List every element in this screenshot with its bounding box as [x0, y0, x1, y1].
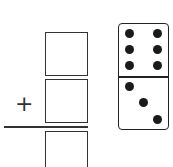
- domino: [118, 23, 169, 130]
- pip: [125, 82, 134, 91]
- answer-box-middle[interactable]: [45, 79, 88, 123]
- pip: [125, 61, 134, 70]
- sum-line: [4, 126, 88, 128]
- pip: [125, 45, 134, 54]
- answer-box-sum[interactable]: [45, 131, 88, 167]
- domino-divider: [119, 76, 168, 78]
- pip: [125, 29, 134, 38]
- answer-box-top[interactable]: [45, 32, 88, 76]
- plus-sign: +: [15, 93, 33, 115]
- pip: [153, 61, 162, 70]
- pip: [153, 115, 162, 124]
- pip: [139, 98, 148, 107]
- pip: [153, 45, 162, 54]
- pip: [153, 29, 162, 38]
